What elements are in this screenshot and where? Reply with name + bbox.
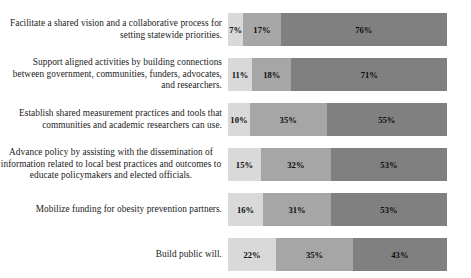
bar-row: Support aligned activities by building c… bbox=[0, 58, 471, 91]
bar-segment: 35% bbox=[250, 103, 327, 136]
segment-value-label: 53% bbox=[380, 205, 397, 215]
bar-segment: 71% bbox=[291, 58, 446, 91]
bar-track: 16%31%53% bbox=[228, 193, 447, 226]
segment-value-label: 7% bbox=[229, 25, 242, 35]
segment-value-label: 55% bbox=[378, 115, 395, 125]
bar-row: Establish shared measurement practices a… bbox=[0, 103, 471, 136]
bar-track: 10%35%55% bbox=[228, 103, 447, 136]
bar-segment: 31% bbox=[263, 193, 331, 226]
bar-segment: 76% bbox=[281, 13, 447, 46]
category-label: Mobilize funding for obesity prevention … bbox=[0, 204, 228, 215]
segment-value-label: 71% bbox=[361, 70, 378, 80]
bar-track: 7%17%76% bbox=[228, 13, 447, 46]
segment-value-label: 53% bbox=[380, 160, 397, 170]
bar-row: Advance policy by assisting with the dis… bbox=[0, 148, 471, 181]
bar-segment: 55% bbox=[327, 103, 447, 136]
segment-value-label: 32% bbox=[287, 160, 304, 170]
bar-track: 15%32%53% bbox=[228, 148, 447, 181]
segment-value-label: 22% bbox=[243, 250, 260, 260]
bar-segment: 53% bbox=[331, 148, 447, 181]
segment-value-label: 11% bbox=[232, 70, 249, 80]
segment-value-label: 18% bbox=[263, 70, 280, 80]
bar-track: 22%35%43% bbox=[228, 238, 447, 271]
segment-value-label: 76% bbox=[355, 25, 372, 35]
bar-segment: 10% bbox=[228, 103, 250, 136]
segment-value-label: 17% bbox=[253, 25, 270, 35]
bar-segment: 11% bbox=[228, 58, 252, 91]
bar-row: Build public will.22%35%43% bbox=[0, 238, 471, 271]
segment-value-label: 35% bbox=[280, 115, 297, 125]
category-label: Support aligned activities by building c… bbox=[0, 57, 228, 91]
bar-row: Facilitate a shared vision and a collabo… bbox=[0, 13, 471, 46]
bar-segment: 18% bbox=[252, 58, 291, 91]
bar-segment: 35% bbox=[276, 238, 353, 271]
segment-value-label: 10% bbox=[230, 115, 247, 125]
bar-row: Mobilize funding for obesity prevention … bbox=[0, 193, 471, 226]
segment-value-label: 43% bbox=[391, 250, 408, 260]
bar-segment: 32% bbox=[261, 148, 331, 181]
stacked-bar-chart: Facilitate a shared vision and a collabo… bbox=[0, 0, 471, 278]
bar-segment: 16% bbox=[228, 193, 263, 226]
bar-segment: 17% bbox=[243, 13, 280, 46]
category-label: Build public will. bbox=[0, 249, 228, 260]
category-label: Advance policy by assisting with the dis… bbox=[0, 147, 228, 181]
category-label: Facilitate a shared vision and a collabo… bbox=[0, 18, 228, 41]
bar-segment: 43% bbox=[353, 238, 447, 271]
bar-segment: 22% bbox=[228, 238, 276, 271]
segment-value-label: 31% bbox=[288, 205, 305, 215]
bar-track: 11%18%71% bbox=[228, 58, 447, 91]
segment-value-label: 35% bbox=[306, 250, 323, 260]
category-label: Establish shared measurement practices a… bbox=[0, 108, 228, 131]
bar-segment: 53% bbox=[331, 193, 447, 226]
bar-segment: 7% bbox=[228, 13, 243, 46]
segment-value-label: 16% bbox=[237, 205, 254, 215]
segment-value-label: 15% bbox=[236, 160, 253, 170]
bar-segment: 15% bbox=[228, 148, 261, 181]
